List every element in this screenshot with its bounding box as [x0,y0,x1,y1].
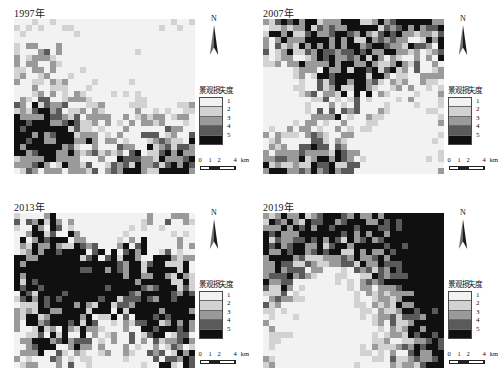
legend-swatch-1 [200,292,222,301]
scale-bar-labels: 0 1 2 4 km [198,156,248,165]
legend-label-2: 2 [476,299,480,307]
legend-label-3: 3 [476,114,480,122]
legend-label-column: 1 2 3 4 5 [227,97,231,139]
legend: 景观损失度 1 2 3 4 5 [199,84,245,145]
legend-swatch-5 [449,136,471,144]
scale-bar-graphic [447,360,497,365]
scale-bar-graphic [447,166,497,171]
legend-swatch-3 [200,311,222,320]
raster-canvas [14,19,195,174]
north-arrow-icon [449,24,477,56]
scale-unit: km [241,156,249,163]
raster-canvas [263,19,444,174]
legend-label-5: 5 [476,325,480,333]
north-arrow-label: N [200,14,228,23]
scale-tick-4: 4 [482,156,485,163]
legend-swatch-5 [200,136,222,144]
scale-unit: km [241,350,249,357]
scale-tick-4: 4 [233,156,236,163]
panel-title: 2019年 [263,199,294,214]
scale-tick-0: 0 [198,350,201,357]
north-arrow: N [200,208,228,250]
scale-tick-1: 1 [457,156,460,163]
legend-swatch-column [199,291,223,339]
legend-swatch-3 [449,311,471,320]
legend-swatch-4 [200,320,222,329]
panel-title: 2007年 [263,5,294,20]
raster-map [14,19,195,174]
raster-map [14,213,195,368]
legend-swatch-5 [200,330,222,338]
raster-map [263,213,444,368]
legend-swatch-5 [449,330,471,338]
legend-swatch-2 [449,107,471,116]
north-arrow-label: N [449,208,477,217]
scale-bar: 0 1 2 4 km [198,156,248,171]
legend-label-3: 3 [227,114,231,122]
map-panel-2019: 2019年 N 景观损失度 1 [249,194,497,387]
raster-map [263,19,444,174]
legend-label-4: 4 [227,122,231,130]
legend-swatch-1 [200,98,222,107]
scale-tick-1: 1 [208,156,211,163]
legend-swatch-4 [449,126,471,135]
north-arrow-icon [449,218,477,250]
legend-label-3: 3 [227,308,231,316]
map-panel-2007: 2007年 N 景观损失度 1 [249,0,497,193]
legend-swatch-column [448,291,472,339]
raster-canvas [14,213,195,368]
scale-bar-graphic [198,360,248,365]
legend-label-column: 1 2 3 4 5 [227,291,231,333]
scale-bar: 0 1 2 4 km [447,350,497,365]
legend: 景观损失度 1 2 3 4 5 [199,278,245,339]
legend-swatch-4 [449,320,471,329]
legend-label-4: 4 [476,122,480,130]
legend-label-3: 3 [476,308,480,316]
scale-bar-labels: 0 1 2 4 km [447,156,497,165]
scale-tick-2: 2 [217,350,220,357]
raster-canvas [263,213,444,368]
legend-label-4: 4 [227,316,231,324]
legend-swatch-3 [449,117,471,126]
north-arrow-icon [200,24,228,56]
north-arrow-label: N [449,14,477,23]
scale-bar-labels: 0 1 2 4 km [447,350,497,359]
scale-tick-1: 1 [457,350,460,357]
panel-title: 1997年 [14,5,45,20]
legend-label-2: 2 [227,105,231,113]
legend-label-5: 5 [227,131,231,139]
legend-label-4: 4 [476,316,480,324]
scale-tick-2: 2 [466,350,469,357]
legend-title: 景观损失度 [448,84,494,95]
legend-label-2: 2 [476,105,480,113]
legend-title: 景观损失度 [199,84,245,95]
scale-tick-0: 0 [198,156,201,163]
legend-label-5: 5 [476,131,480,139]
legend-swatch-1 [449,98,471,107]
scale-bar: 0 1 2 4 km [447,156,497,171]
legend-label-column: 1 2 3 4 5 [476,97,480,139]
north-arrow-label: N [200,208,228,217]
scale-tick-0: 0 [447,350,450,357]
legend-swatch-4 [200,126,222,135]
legend-swatch-column [448,97,472,145]
legend-swatch-2 [200,301,222,310]
scale-tick-2: 2 [466,156,469,163]
scale-tick-4: 4 [233,350,236,357]
legend-swatch-3 [200,117,222,126]
legend-swatch-2 [449,301,471,310]
scale-tick-1: 1 [208,350,211,357]
scale-tick-2: 2 [217,156,220,163]
north-arrow-icon [200,218,228,250]
legend-label-column: 1 2 3 4 5 [476,291,480,333]
legend-label-1: 1 [227,97,231,105]
legend: 景观损失度 1 2 3 4 5 [448,84,494,145]
legend-swatch-column [199,97,223,145]
scale-tick-4: 4 [482,350,485,357]
north-arrow: N [449,208,477,250]
scale-tick-0: 0 [447,156,450,163]
north-arrow: N [449,14,477,56]
legend-label-2: 2 [227,299,231,307]
legend: 景观损失度 1 2 3 4 5 [448,278,494,339]
